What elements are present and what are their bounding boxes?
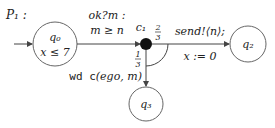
state-q3[interactable]: q₃ [129,87,163,121]
prob-1-3-num: 1 [135,50,140,59]
state-q0-invariant: x ≤ 7 [40,46,69,59]
automaton-title: P₁ : [5,8,27,22]
prob-2-3-num: 2 [154,23,160,32]
branch-node-label: c₁ [136,21,147,34]
edge-c1-q3-label: wd c(ego, m) [69,70,142,83]
edge-c1-q2-action: send!⟨n⟩; [175,25,225,38]
state-q2[interactable]: q₂ [230,26,266,62]
state-q0[interactable]: q₀ x ≤ 7 [33,22,77,66]
edge-q0-c1-action: ok?m : [89,9,126,22]
prob-2-3-den: 3 [155,33,160,42]
state-q0-label: q₀ [49,31,61,44]
edge-q0-c1-guard: m ≥ n [90,24,124,37]
state-q3-label: q₃ [140,98,151,111]
branch-node-c1[interactable] [140,38,152,50]
edge-c1-q2-reset: x := 0 [183,50,216,63]
prob-1-3-den: 3 [135,60,140,69]
pta-diagram: P₁ : q₀ x ≤ 7 ok?m : m ≥ n c₁ 2 3 send!⟨… [0,0,275,128]
state-q2-label: q₂ [242,38,253,51]
